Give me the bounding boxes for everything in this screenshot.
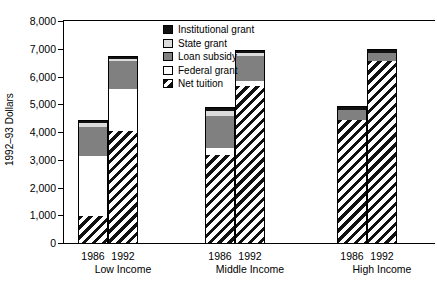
- bar-segment-institutional-grant: [108, 56, 138, 59]
- bar-segment-state-grant: [108, 59, 138, 62]
- legend-label: Institutional grant: [178, 24, 254, 35]
- bar-segment-net-tuition: [337, 120, 367, 244]
- bar-segment-institutional-grant: [78, 120, 108, 123]
- legend-label: State grant: [178, 38, 227, 49]
- legend-label: Loan subsidy: [178, 51, 237, 62]
- y-tick-label: 5,000: [14, 98, 56, 110]
- legend-item-federal-grant: Federal grant: [163, 64, 254, 77]
- bar-segment-loan-subsidy: [367, 53, 397, 61]
- x-tick-label-year: 1992: [352, 250, 412, 262]
- bar-high-income-1986: [337, 0, 367, 286]
- bar-segment-federal-grant: [108, 89, 138, 131]
- legend-item-net-tuition: Net tuition: [163, 77, 254, 90]
- y-tick-label: 8,000: [14, 15, 56, 27]
- bar-segment-loan-subsidy: [108, 61, 138, 89]
- bar-segment-federal-grant: [205, 148, 235, 155]
- legend-label: Net tuition: [178, 78, 223, 89]
- bar-segment-state-grant: [205, 111, 235, 115]
- legend-swatch-loan-subsidy: [163, 52, 173, 61]
- y-tick-label: 2,000: [14, 182, 56, 194]
- bar-segment-institutional-grant: [337, 106, 367, 110]
- legend-item-state-grant: State grant: [163, 37, 254, 50]
- bar-high-income-1992: [367, 0, 397, 286]
- bar-segment-loan-subsidy: [78, 127, 108, 156]
- x-axis-group-label: Middle Income: [195, 263, 305, 275]
- y-axis-line: [63, 20, 64, 244]
- y-tick-label: 3,000: [14, 154, 56, 166]
- y-tick-label: 6,000: [14, 71, 56, 83]
- bar-segment-net-tuition: [78, 216, 108, 244]
- legend-item-institutional-grant: Institutional grant: [163, 23, 254, 36]
- legend-swatch-institutional-grant: [163, 25, 173, 34]
- bar-segment-state-grant: [78, 123, 108, 127]
- legend-swatch-state-grant: [163, 39, 173, 48]
- legend-item-loan-subsidy: Loan subsidy: [163, 50, 254, 63]
- legend-swatch-net-tuition: [163, 79, 173, 88]
- y-tick-label: 1,000: [14, 209, 56, 221]
- legend: Institutional grant State grant Loan sub…: [163, 23, 254, 91]
- bar-segment-net-tuition: [367, 61, 397, 243]
- y-axis-tick-labels: 8,000 7,000 6,000 5,000 4,000 3,000 2,00…: [10, 0, 56, 286]
- y-tick-label: 0: [14, 237, 56, 249]
- x-axis-group-label: Low Income: [68, 263, 178, 275]
- bar-segment-institutional-grant: [205, 107, 235, 111]
- stacked-bar-chart: 1992–93 Dollars 8,000 7,000 6,000 5,000 …: [0, 0, 437, 286]
- legend-swatch-federal-grant: [163, 66, 173, 75]
- legend-label: Federal grant: [178, 65, 237, 76]
- bar-segment-federal-grant: [78, 156, 108, 216]
- bar-segment-loan-subsidy: [205, 116, 235, 148]
- bar-segment-loan-subsidy: [337, 110, 367, 120]
- bar-low-income-1992: [108, 0, 138, 286]
- bar-low-income-1986: [78, 0, 108, 286]
- x-tick-label-year: 1992: [220, 250, 280, 262]
- y-tick-label: 4,000: [14, 126, 56, 138]
- x-tick-label-year: 1992: [93, 250, 153, 262]
- bar-segment-net-tuition: [108, 131, 138, 244]
- bar-segment-net-tuition: [235, 86, 265, 243]
- bar-segment-institutional-grant: [367, 49, 397, 53]
- y-tick-label: 7,000: [14, 43, 56, 55]
- bar-segment-net-tuition: [205, 155, 235, 244]
- x-axis-group-label: High Income: [327, 263, 437, 275]
